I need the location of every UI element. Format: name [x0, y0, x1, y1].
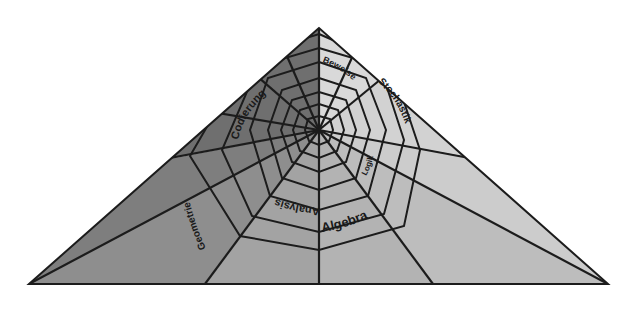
- spider-web-triangle-diagram: Beweise Stochastik Logik Algebra Analysi…: [0, 0, 626, 312]
- sector-codierung: [0, 0, 319, 160]
- diagram-canvas: Beweise Stochastik Logik Algebra Analysi…: [0, 0, 626, 312]
